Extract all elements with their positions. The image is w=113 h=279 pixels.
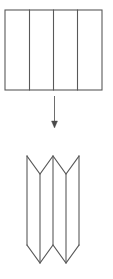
folded-sheet-bottom-profile [27,245,79,263]
flat-sheet-group [5,10,102,90]
arrow-head-icon [52,121,58,128]
folded-sheet-group [27,156,79,263]
figure-container: Accordion fold of a rectangular sheet A … [0,0,113,279]
folding-diagram [0,0,113,279]
transformation-arrow-group [52,96,58,128]
